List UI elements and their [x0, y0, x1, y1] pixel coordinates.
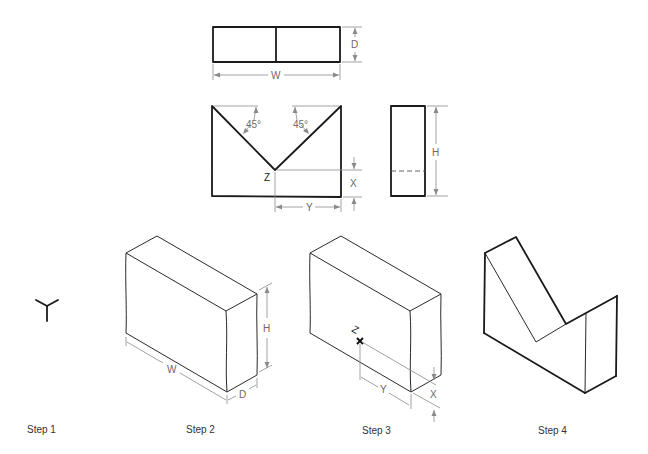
step-2-label: Step 2 [186, 424, 215, 435]
angle-left-label: 45° [246, 119, 261, 130]
step-2-bounding-box: H W D [126, 236, 272, 404]
point-z-label: Z [264, 172, 270, 183]
step-3-locate-point: Z Y X [310, 236, 442, 422]
x-label: X [350, 178, 357, 189]
side-view-height-label: H [432, 147, 439, 158]
top-view: D W [213, 27, 362, 81]
step-4-finished-object [484, 237, 617, 393]
side-view: H [391, 106, 448, 196]
step-3-y-label: Y [380, 384, 387, 395]
step-3-x-label: X [430, 389, 437, 400]
top-view-depth-label: D [351, 39, 358, 50]
step-3-label: Step 3 [362, 425, 391, 436]
step-2-depth-label: D [239, 389, 246, 400]
point-z-marker [357, 338, 363, 344]
step-1-label: Step 1 [27, 424, 56, 435]
top-view-width-label: W [271, 70, 281, 81]
step-2-height-label: H [263, 323, 270, 334]
technical-drawing: D W 45° 45° Z X [0, 0, 648, 454]
step-1-isometric-axes [36, 300, 58, 321]
step-2-width-label: W [167, 364, 177, 375]
y-label: Y [306, 202, 313, 213]
angle-right-label: 45° [293, 119, 308, 130]
step-3-z-label: Z [350, 323, 361, 336]
front-view: 45° 45° Z X Y [212, 106, 362, 213]
step-4-label: Step 4 [538, 425, 567, 436]
